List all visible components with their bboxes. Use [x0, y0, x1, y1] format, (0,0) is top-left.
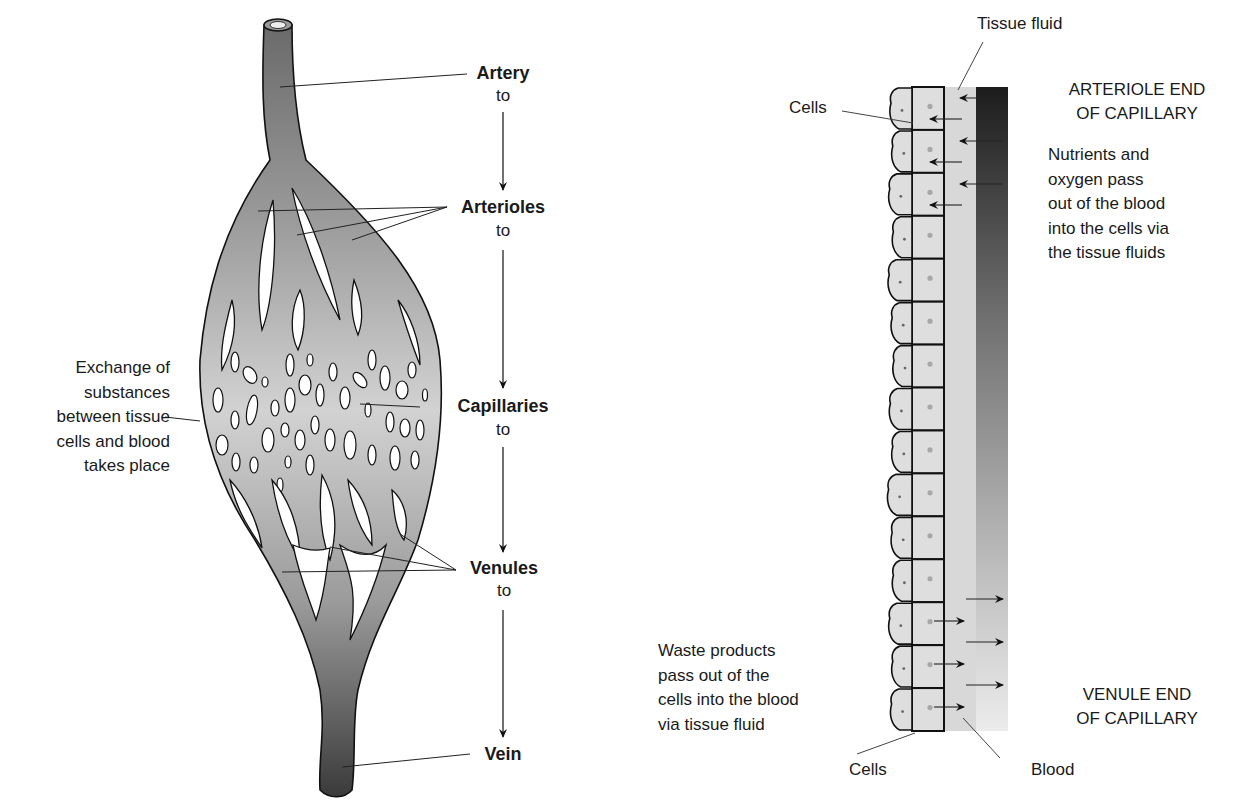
label-venule-end: VENULE END OF CAPILLARY	[1040, 683, 1234, 731]
label-artery: Artery	[468, 63, 538, 84]
outer-cell	[891, 517, 912, 558]
label-cells-bottom: Cells	[849, 759, 887, 780]
outer-cell	[893, 346, 912, 387]
inner-cells	[912, 87, 944, 731]
label-blood: Blood	[1031, 759, 1074, 780]
label-venules: Venules	[456, 558, 552, 579]
cell-nucleus	[927, 319, 932, 324]
label-capillaries: Capillaries	[420, 396, 586, 417]
cell-nucleus	[927, 490, 932, 495]
cell	[912, 559, 944, 602]
connector-to-1: to	[468, 85, 538, 106]
outer-cell	[892, 560, 912, 601]
label-vein: Vein	[470, 744, 536, 765]
cell-nucleus	[927, 233, 932, 238]
cell	[912, 345, 944, 388]
cell-nucleus	[927, 619, 932, 624]
nutrients-note: Nutrients and oxygen pass out of the blo…	[1048, 143, 1169, 266]
cell-nucleus	[927, 447, 932, 452]
cell-nucleus	[927, 147, 932, 152]
label-cells-top: Cells	[789, 97, 827, 118]
outer-cell	[892, 646, 912, 687]
cell	[912, 388, 944, 431]
cell-nucleus	[927, 104, 932, 109]
cell	[912, 302, 944, 345]
cell	[912, 430, 944, 473]
exchange-note: Exchange of substances between tissue ce…	[20, 356, 170, 479]
outer-cell	[889, 174, 912, 215]
cell	[912, 173, 944, 216]
connector-to-2: to	[448, 220, 558, 241]
cell-nucleus	[927, 705, 932, 710]
cell-nucleus	[927, 190, 932, 195]
outer-cell	[892, 131, 912, 172]
cell-nucleus	[927, 662, 932, 667]
cell-nucleus	[927, 533, 932, 538]
outer-cell	[891, 303, 912, 344]
cell	[912, 473, 944, 516]
outer-cell	[892, 217, 912, 258]
cell-nucleus	[927, 576, 932, 581]
waste-note: Waste products pass out of the cells int…	[658, 639, 799, 737]
cell-nucleus	[927, 276, 932, 281]
cell	[912, 688, 944, 731]
connector-to-4: to	[456, 580, 552, 601]
cell	[912, 216, 944, 259]
cell	[912, 87, 944, 130]
outer-cell	[890, 689, 912, 730]
connector-to-3: to	[420, 419, 586, 440]
outer-cell	[890, 88, 912, 129]
label-arterioles: Arterioles	[448, 197, 558, 218]
cell	[912, 645, 944, 688]
label-tissue-fluid: Tissue fluid	[977, 13, 1062, 34]
capillary-exchange	[842, 42, 1008, 758]
outer-cell	[889, 603, 912, 644]
outer-cell	[889, 389, 912, 430]
cell	[912, 602, 944, 645]
outer-cell	[892, 431, 912, 472]
cell-nucleus	[927, 404, 932, 409]
cell	[912, 516, 944, 559]
cell-nucleus	[927, 361, 932, 366]
outer-cell	[888, 260, 912, 301]
outer-cell	[887, 474, 912, 515]
cell	[912, 259, 944, 302]
cell	[912, 130, 944, 173]
label-arteriole-end: ARTERIOLE END OF CAPILLARY	[1040, 78, 1234, 126]
outer-cells	[887, 88, 912, 730]
